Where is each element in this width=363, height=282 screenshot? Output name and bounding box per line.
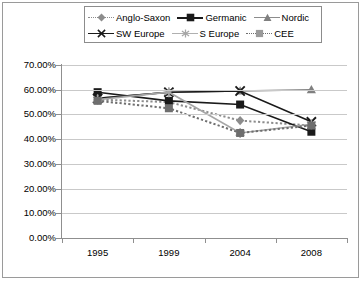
legend-label-germanic: Germanic	[203, 12, 246, 23]
cross-icon	[97, 29, 106, 38]
y-axis-tick-label: 40.00%	[2, 134, 56, 144]
gridline	[62, 65, 347, 66]
legend-swatch-nordic	[254, 12, 280, 23]
square-icon	[255, 29, 264, 38]
y-axis-tick-label: 70.00%	[2, 60, 56, 70]
plot-area	[62, 65, 347, 238]
legend-label-anglo-saxon: Anglo-Saxon	[114, 12, 170, 23]
square-marker	[236, 129, 244, 137]
legend-label-nordic: Nordic	[280, 12, 309, 23]
square-icon	[186, 13, 195, 22]
legend-item-s-europe[interactable]: S Europe	[172, 28, 240, 39]
legend-item-sw-europe[interactable]: SW Europe	[88, 28, 165, 39]
legend-label-sw-europe: SW Europe	[114, 28, 165, 39]
y-axis-tick-label: 0.00%	[2, 233, 56, 243]
asterisk-icon	[181, 29, 190, 38]
y-axis-tick	[56, 90, 62, 91]
legend-item-cee[interactable]: CEE	[246, 28, 294, 39]
x-axis-tick	[347, 238, 348, 243]
chart-legend: Anglo-Saxon Germanic Nordic	[84, 6, 322, 43]
legend-swatch-germanic	[177, 12, 203, 23]
square-marker	[307, 122, 315, 130]
y-axis-tick	[56, 213, 62, 214]
y-axis-labels: 0.00%10.00%20.00%30.00%40.00%50.00%60.00…	[0, 0, 56, 282]
gridline	[62, 114, 347, 115]
gridline	[62, 189, 347, 190]
y-axis-tick	[56, 114, 62, 115]
x-axis-tick-label: 2004	[210, 247, 270, 258]
square-marker	[165, 97, 173, 105]
x-axis-tick	[276, 238, 277, 243]
series-s-europe	[93, 87, 316, 138]
legend-swatch-anglo-saxon	[88, 12, 114, 23]
y-axis-tick	[56, 65, 62, 66]
gridline	[62, 213, 347, 214]
legend-swatch-cee	[246, 28, 272, 39]
x-axis-tick-label: 2008	[281, 247, 341, 258]
diamond-marker	[236, 116, 244, 125]
legend-swatch-sw-europe	[88, 28, 114, 39]
legend-item-germanic[interactable]: Germanic	[177, 12, 246, 23]
x-axis-tick	[62, 238, 63, 243]
legend-swatch-s-europe	[172, 28, 198, 39]
x-axis-tick	[205, 238, 206, 243]
series-lines	[62, 65, 347, 238]
y-axis-tick	[56, 139, 62, 140]
gridline	[62, 164, 347, 165]
x-axis-tick-label: 1999	[139, 247, 199, 258]
square-marker	[94, 97, 102, 105]
legend-item-nordic[interactable]: Nordic	[254, 12, 309, 23]
square-marker	[165, 104, 173, 112]
series-line	[98, 92, 312, 133]
series-line	[98, 101, 312, 133]
diamond-icon	[97, 13, 106, 22]
legend-item-anglo-saxon[interactable]: Anglo-Saxon	[88, 12, 170, 23]
y-axis-tick	[56, 164, 62, 165]
y-axis-tick-label: 30.00%	[2, 159, 56, 169]
x-axis-tick-label: 1995	[68, 247, 128, 258]
square-marker	[236, 101, 244, 109]
chart-container: Anglo-Saxon Germanic Nordic	[0, 0, 363, 282]
series-nordic	[93, 85, 316, 102]
y-axis-tick-label: 20.00%	[2, 184, 56, 194]
triangle-icon	[263, 13, 272, 22]
gridline	[62, 139, 347, 140]
y-axis-tick-label: 50.00%	[2, 109, 56, 119]
gridline	[62, 90, 347, 91]
legend-row-2: SW Europe S Europe CEE	[88, 25, 318, 41]
legend-label-cee: CEE	[272, 28, 294, 39]
y-axis-tick	[56, 189, 62, 190]
legend-label-s-europe: S Europe	[198, 28, 240, 39]
x-axis-tick	[133, 238, 134, 243]
legend-row-1: Anglo-Saxon Germanic Nordic	[88, 9, 318, 25]
y-axis-tick-label: 60.00%	[2, 85, 56, 95]
y-axis-tick-label: 10.00%	[2, 208, 56, 218]
